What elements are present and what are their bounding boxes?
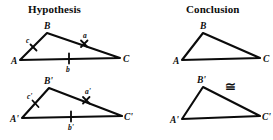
- triangle-abc-prime-outline: [22, 88, 122, 118]
- geometry-figure: Hypothesis Conclusion A B C c a b: [0, 0, 273, 140]
- vertex-label-b-prime: B': [43, 76, 53, 86]
- side-label-c-prime: c': [27, 92, 32, 101]
- vertex-label-b: B: [43, 21, 50, 31]
- vertex-label-a-prime: A': [9, 114, 19, 124]
- hypothesis-triangle-abc-prime: A' B' C' c' a' b': [9, 76, 133, 132]
- vertex-label-a: A: [10, 56, 17, 66]
- panel-title-conclusion: Conclusion: [186, 3, 240, 15]
- diagram-canvas: A B C c a b A' B' C' c' a' b' A B C: [0, 0, 273, 140]
- conclusion-vertex-label-c: C: [263, 54, 270, 64]
- side-label-a: a: [83, 31, 87, 40]
- conclusion-vertex-label-b: B: [199, 21, 206, 31]
- conclusion-triangle-abc: A B C: [172, 21, 270, 66]
- side-label-a-prime: a': [85, 87, 91, 96]
- vertex-label-c-prime: C': [124, 112, 133, 122]
- conclusion-triangle-abc-outline: [182, 33, 260, 60]
- conclusion-vertex-label-a: A: [172, 56, 179, 66]
- side-label-b-prime: b': [68, 123, 74, 132]
- conclusion-triangle-abc-prime-outline: [182, 87, 260, 119]
- conclusion-vertex-label-b-prime: B': [196, 75, 206, 85]
- conclusion-vertex-label-c-prime: C': [262, 112, 271, 122]
- triangle-abc-outline: [20, 33, 120, 60]
- hypothesis-triangle-abc: A B C c a b: [10, 21, 130, 74]
- side-label-b: b: [66, 65, 70, 74]
- vertex-label-c: C: [123, 54, 130, 64]
- side-label-c: c: [26, 36, 30, 45]
- conclusion-vertex-label-a-prime: A': [169, 115, 179, 125]
- congruence-symbol: ≅: [225, 79, 236, 94]
- conclusion-triangle-abc-prime: A' B' C': [169, 75, 271, 125]
- panel-title-hypothesis: Hypothesis: [28, 3, 81, 15]
